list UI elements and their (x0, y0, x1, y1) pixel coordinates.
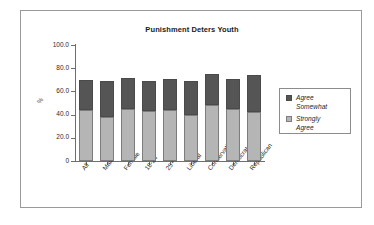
bar-group[interactable] (100, 81, 114, 161)
bar-segment-strongly-agree[interactable] (184, 115, 198, 161)
y-axis-tick-label: 100.0 (53, 41, 69, 48)
chart-frame: Punishment Deters Youth % 020.040.060.08… (20, 10, 362, 208)
chart-figure: Punishment Deters Youth % 020.040.060.08… (0, 0, 374, 225)
y-axis-tick-label: 80.0 (56, 64, 69, 71)
y-axis-title: % (35, 96, 44, 105)
bar-segment-agree-somewhat[interactable] (205, 74, 219, 105)
bar-group[interactable] (142, 81, 156, 161)
bar-group[interactable] (205, 74, 219, 161)
y-axis-tick-label: 40.0 (56, 110, 69, 117)
legend-item[interactable]: Strongly Agree (286, 115, 320, 132)
y-axis-tick-label: 20.0 (56, 133, 69, 140)
bar-segment-agree-somewhat[interactable] (121, 78, 135, 109)
bar-segment-strongly-agree[interactable] (121, 109, 135, 161)
legend-item[interactable]: Agree Somewhat (286, 94, 327, 111)
legend-swatch-icon (286, 116, 292, 122)
bar-group[interactable] (163, 79, 177, 161)
legend-swatch-icon (286, 95, 292, 101)
y-axis-tick-mark (71, 161, 75, 162)
chart-title: Punishment Deters Youth (21, 25, 363, 34)
bar-group[interactable] (79, 80, 93, 161)
bar-segment-agree-somewhat[interactable] (100, 81, 114, 117)
bar-segment-strongly-agree[interactable] (226, 109, 240, 161)
bar-group[interactable] (121, 77, 135, 161)
y-axis-tick: 0 (71, 161, 75, 162)
x-axis-tick-label: All (80, 161, 90, 171)
bar-group[interactable] (226, 79, 240, 161)
bar-segment-strongly-agree[interactable] (247, 112, 261, 161)
bar-segment-strongly-agree[interactable] (79, 110, 93, 161)
bar-segment-agree-somewhat[interactable] (142, 81, 156, 111)
chart-legend: Agree SomewhatStrongly Agree (279, 88, 351, 134)
plot-area (75, 45, 264, 161)
bar-segment-strongly-agree[interactable] (100, 117, 114, 161)
y-axis-tick-label: 0 (65, 157, 69, 164)
y-axis-tick-label: 60.0 (56, 87, 69, 94)
bar-segment-agree-somewhat[interactable] (226, 79, 240, 109)
legend-item-label: Agree Somewhat (296, 94, 327, 111)
bar-segment-strongly-agree[interactable] (205, 105, 219, 161)
bar-segment-strongly-agree[interactable] (142, 111, 156, 161)
legend-item-label: Strongly Agree (296, 115, 320, 132)
bar-group[interactable] (247, 75, 261, 161)
bar-segment-agree-somewhat[interactable] (163, 79, 177, 110)
bar-segment-agree-somewhat[interactable] (79, 80, 93, 110)
bar-segment-strongly-agree[interactable] (163, 110, 177, 161)
bar-segment-agree-somewhat[interactable] (184, 81, 198, 115)
bar-segment-agree-somewhat[interactable] (247, 75, 261, 112)
bar-group[interactable] (184, 81, 198, 161)
